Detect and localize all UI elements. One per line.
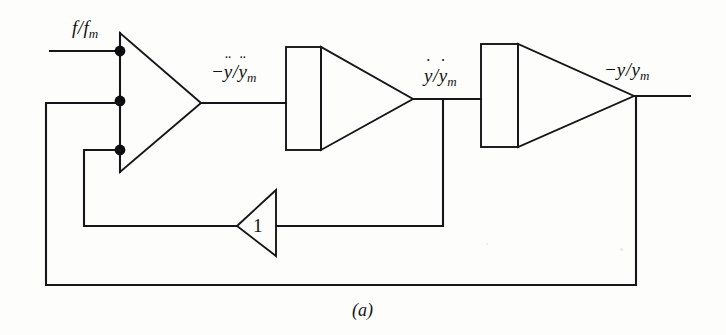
label-displacement-numerator: y xyxy=(617,60,625,79)
label-displacement: −y/ym xyxy=(604,60,650,82)
label-velocity-numerator: y˙ xyxy=(424,66,432,85)
first-integrator-capacitor xyxy=(286,47,321,150)
first-integrator-amplifier xyxy=(321,47,413,150)
inverter-output-feedback xyxy=(84,150,237,226)
paper-speck xyxy=(486,243,488,245)
summing-input-dot-1 xyxy=(115,46,126,57)
block-diagram xyxy=(0,0,726,335)
figure-canvas: f/fm −y¨/y¨m y˙/y˙m −y/ym 1 (a) xyxy=(0,0,726,335)
label-acceleration-denominator: y¨ xyxy=(239,62,247,81)
figure-caption: (a) xyxy=(352,300,373,321)
inverter-gain-label: 1 xyxy=(253,215,263,237)
label-velocity-denominator: y˙ xyxy=(439,66,447,85)
velocity-tap-to-inverter xyxy=(277,99,443,226)
second-integrator-capacitor xyxy=(481,44,518,147)
outer-feedback-loop xyxy=(46,96,636,285)
label-input-signal: f/fm xyxy=(72,18,98,40)
paper-speck xyxy=(620,248,623,251)
label-acceleration-numerator: y¨ xyxy=(224,62,232,81)
summing-amplifier-triangle xyxy=(120,33,201,172)
label-input-numerator: f xyxy=(72,18,77,37)
label-acceleration: −y¨/y¨m xyxy=(211,62,257,84)
label-velocity: y˙/y˙m xyxy=(424,66,457,88)
summing-input-dot-2 xyxy=(115,96,126,107)
